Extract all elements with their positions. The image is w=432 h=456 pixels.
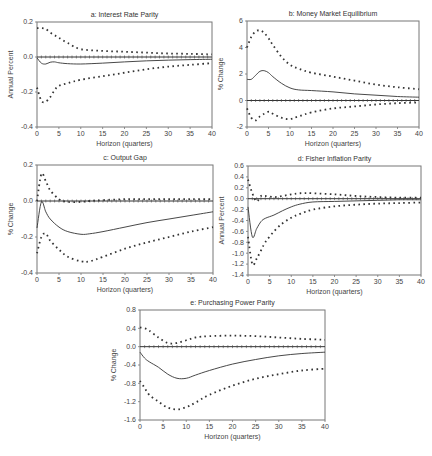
y-tick-label: -0.4	[124, 361, 136, 368]
confidence-band-line	[37, 173, 213, 202]
x-axis-label: Horizon (quarters)	[96, 140, 152, 148]
x-tick-label: 5	[268, 278, 272, 285]
x-tick-label: 30	[372, 130, 380, 137]
y-axis-label: % Change	[110, 349, 118, 382]
x-tick-label: 10	[77, 130, 85, 137]
y-tick-label: -0.2	[21, 88, 33, 95]
x-tick-label: 0	[35, 130, 39, 137]
y-axis-label: % Change	[217, 58, 225, 91]
y-tick-label: -0.4	[21, 269, 33, 276]
chart-panel-b: b: Money Market Equilibrium-202460510152…	[217, 10, 423, 148]
x-tick-label: 10	[182, 423, 190, 430]
y-tick-label: 0.8	[126, 306, 136, 313]
confidence-band-line	[140, 327, 325, 343]
y-tick-label: -1.4	[232, 271, 244, 278]
plot-frame	[37, 165, 213, 273]
x-tick-label: 35	[187, 276, 195, 283]
x-tick-label: 30	[275, 423, 283, 430]
response-line	[37, 58, 212, 64]
chart-title: a: Interest Rate Parity	[91, 11, 159, 19]
x-tick-label: 25	[252, 423, 260, 430]
x-tick-label: 0	[246, 278, 250, 285]
plot-frame	[37, 22, 212, 127]
y-tick-label: -1.0	[232, 250, 244, 257]
y-tick-label: -1.2	[124, 398, 136, 405]
y-tick-label: -1.6	[124, 416, 136, 423]
x-tick-label: 15	[308, 130, 316, 137]
y-tick-label: -2	[237, 123, 243, 130]
x-tick-label: 40	[417, 278, 425, 285]
x-tick-label: 15	[99, 276, 107, 283]
y-tick-label: 4	[239, 44, 243, 51]
y-tick-label: 0.0	[23, 53, 33, 60]
y-axis-label: Annual Percent	[7, 51, 14, 99]
x-tick-label: 10	[286, 130, 294, 137]
chart-panel-e: e: Purchasing Power Parity-1.6-1.2-0.8-0…	[110, 299, 329, 441]
confidence-band-line	[248, 203, 421, 266]
y-tick-label: -0.4	[232, 217, 244, 224]
y-tick-label: -0.4	[21, 123, 33, 130]
x-tick-label: 30	[374, 278, 382, 285]
y-axis-label: % Change	[7, 203, 15, 236]
x-tick-label: 25	[143, 276, 151, 283]
chart-title: d: Fisher Inflation Parity	[298, 155, 372, 163]
y-tick-label: -0.8	[232, 239, 244, 246]
confidence-band-line	[37, 28, 212, 54]
x-tick-label: 15	[309, 278, 317, 285]
confidence-band-line	[247, 102, 419, 120]
x-tick-label: 40	[415, 130, 423, 137]
y-tick-label: 6	[239, 17, 243, 24]
x-tick-label: 10	[287, 278, 295, 285]
x-tick-label: 0	[138, 423, 142, 430]
x-axis-label: Horizon (quarters)	[305, 140, 361, 148]
y-tick-label: -0.6	[232, 228, 244, 235]
y-axis-label: Annual Percent	[218, 197, 225, 245]
y-tick-label: 0.4	[234, 173, 244, 180]
x-tick-label: 5	[57, 276, 61, 283]
x-tick-label: 10	[77, 276, 85, 283]
x-tick-label: 5	[161, 423, 165, 430]
x-tick-label: 40	[209, 276, 217, 283]
x-tick-label: 35	[395, 278, 403, 285]
x-tick-label: 5	[57, 130, 61, 137]
chart-title: e: Purchasing Power Parity	[190, 299, 275, 307]
y-tick-label: 2	[239, 70, 243, 77]
x-axis-label: Horizon (quarters)	[97, 286, 153, 294]
x-tick-label: 0	[245, 130, 249, 137]
y-tick-label: 0.0	[234, 195, 244, 202]
x-axis-label: Horizon (quarters)	[306, 288, 362, 296]
x-tick-label: 20	[121, 130, 129, 137]
chart-canvas: a: Interest Rate Parity-0.4-0.20.00.2051…	[0, 0, 432, 456]
confidence-band-line	[37, 63, 212, 102]
chart-panel-a: a: Interest Rate Parity-0.4-0.20.00.2051…	[7, 11, 216, 148]
x-tick-label: 5	[267, 130, 271, 137]
x-tick-label: 0	[35, 276, 39, 283]
x-tick-label: 20	[329, 130, 337, 137]
x-tick-label: 20	[331, 278, 339, 285]
response-line	[140, 352, 325, 379]
y-tick-label: -1.2	[232, 260, 244, 267]
confidence-band-line	[37, 227, 213, 262]
chart-title: c: Output Gap	[103, 154, 147, 162]
y-tick-label: -0.2	[21, 233, 33, 240]
chart-title: b: Money Market Equilibrium	[289, 10, 378, 18]
chart-panel-d: d: Fisher Inflation Parity-1.4-1.2-1.0-0…	[218, 155, 425, 296]
x-tick-label: 25	[142, 130, 150, 137]
x-tick-label: 25	[351, 130, 359, 137]
y-tick-label: 0	[239, 97, 243, 104]
y-tick-label: -0.2	[232, 206, 244, 213]
plot-frame	[140, 310, 325, 420]
chart-panel-c: c: Output Gap-0.4-0.20.00.20510152025303…	[7, 154, 217, 294]
x-tick-label: 40	[208, 130, 216, 137]
y-tick-label: 0.2	[23, 18, 33, 25]
y-tick-label: 0.2	[234, 184, 244, 191]
y-tick-label: 0.0	[126, 343, 136, 350]
y-tick-label: -0.8	[124, 380, 136, 387]
plot-frame	[248, 166, 421, 275]
x-tick-label: 25	[352, 278, 360, 285]
response-line	[247, 71, 419, 98]
y-tick-label: 0.6	[234, 162, 244, 169]
x-tick-label: 20	[229, 423, 237, 430]
x-tick-label: 40	[321, 423, 329, 430]
x-tick-label: 35	[298, 423, 306, 430]
